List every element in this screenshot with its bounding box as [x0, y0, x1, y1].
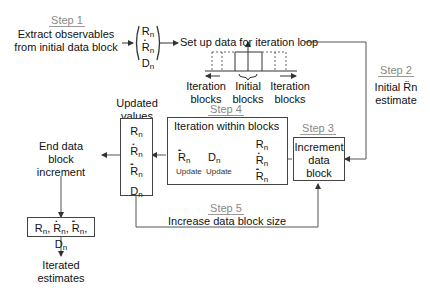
label-line: Initial — [229, 80, 267, 93]
step1-line2: from initial data block — [10, 41, 122, 54]
setup-text: Set up data for iteration loop — [180, 36, 318, 49]
step5-text: Increase data block size — [168, 215, 286, 228]
updated-values-box: Rn Rn Rn Dn — [120, 118, 153, 196]
end-line: increment — [35, 166, 87, 179]
step1-line1: Extract observables — [10, 28, 122, 41]
step4-title: Iteration within blocks — [174, 120, 279, 133]
step3-line: Increment — [294, 141, 344, 154]
increment-data-block-box: Increment data block — [293, 137, 345, 181]
step4-label: Step 4 — [200, 103, 252, 115]
observables-vector: Rn Rn Dn — [140, 25, 156, 73]
label-line: Iteration — [270, 80, 310, 93]
step2-line1: Initial R̈n — [368, 81, 424, 94]
final-line: Iterated — [31, 259, 91, 272]
label-line: blocks — [270, 93, 310, 106]
update-label-1: Update — [176, 167, 202, 176]
step3-line: data — [294, 154, 344, 167]
step2-line2: estimate — [368, 94, 424, 107]
end-line: block — [35, 153, 87, 166]
rddot-update: Rn — [178, 151, 190, 167]
title-line: Updated — [112, 97, 162, 110]
end-data-block-text: End data block increment — [35, 140, 87, 179]
iteration-within-blocks-box: Iteration within blocks Rn Update Dn Upd… — [167, 117, 288, 185]
iteration-vector: Rn Rn Rn — [255, 138, 269, 186]
dn-update: Dn — [208, 151, 220, 167]
iterated-estimates-text: Iterated estimates — [31, 259, 91, 285]
step3-label: Step 3 — [292, 122, 344, 134]
step2-text: Initial R̈n estimate — [368, 81, 424, 107]
iteration-blocks-right: Iterationblocks — [270, 80, 310, 106]
step1-text: Extract observables from initial data bl… — [10, 28, 122, 54]
final-estimates-box: Rn, Rn, Rn, Dn — [27, 217, 95, 237]
update-label-2: Update — [206, 167, 232, 176]
final-line: estimates — [31, 272, 91, 285]
step3-line: block — [294, 167, 344, 180]
end-line: End data — [35, 140, 87, 153]
step5-label: Step 5 — [200, 202, 252, 214]
step2-label: Step 2 — [370, 64, 422, 76]
step1-label: Step 1 — [22, 14, 112, 26]
label-line: Iteration — [186, 80, 226, 93]
